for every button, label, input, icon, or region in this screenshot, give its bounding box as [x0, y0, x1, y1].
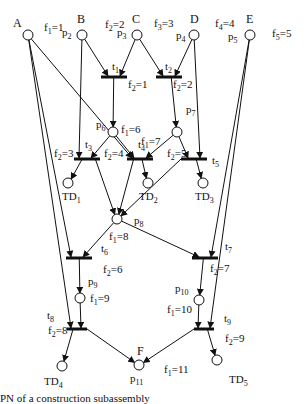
- label-t8: t8: [47, 309, 54, 324]
- label-p7: p7: [186, 103, 196, 118]
- function-label-p9: f1=9: [90, 292, 110, 307]
- arc-B-t1: [85, 39, 108, 76]
- transition-t3: [74, 158, 100, 161]
- place-p10: [194, 295, 204, 305]
- place-TD4: [57, 361, 67, 371]
- function-label-p8: f1=8: [109, 230, 129, 245]
- arc-D-t2: [175, 40, 192, 76]
- place-p9: [75, 293, 85, 303]
- transition-t1: [101, 76, 127, 79]
- place-p8: [112, 214, 122, 224]
- arc-p9-t8: [80, 303, 81, 328]
- function-label-t8: f2=8: [48, 324, 68, 339]
- place-E: [245, 30, 255, 40]
- label-t9: t9: [224, 312, 231, 327]
- place-C: [132, 30, 142, 40]
- label-p5: p5: [228, 30, 238, 45]
- place-TD1: [63, 178, 73, 188]
- label-t6: t6: [101, 242, 108, 257]
- label-t3: t3: [85, 138, 92, 153]
- arc-t9-p11: [143, 329, 194, 363]
- function-label-p6: f1=6: [121, 123, 141, 138]
- label-TD2: TD2: [139, 190, 158, 205]
- transition-t8: [67, 328, 87, 331]
- function-label-t9: f2=9: [225, 332, 245, 347]
- label-p4: p4: [176, 29, 186, 44]
- function-label-D: f3=3: [154, 17, 174, 32]
- arc-t4-TD2: [142, 159, 146, 178]
- label-B: B: [77, 12, 85, 26]
- place-TD5: [212, 355, 222, 365]
- arc-t9-TD5: [207, 329, 215, 355]
- arc-C-t1: [120, 40, 135, 76]
- label-TD5: TD5: [229, 373, 248, 388]
- function-label-t3: f2=3: [54, 147, 74, 162]
- label-p10: p10: [175, 282, 189, 297]
- label-t5: t5: [212, 154, 219, 169]
- label-E: E: [246, 12, 253, 26]
- label-t2: t2: [165, 60, 172, 75]
- arc-t1-p6: [113, 77, 114, 127]
- arc-E-t7: [211, 40, 249, 257]
- label-p11: p11: [130, 372, 143, 387]
- transition-t7: [192, 257, 218, 260]
- petri-net-diagram: ABCDEFp2p3p4p5p6p7p8p9p10p11TD1TD2TD3TD4…: [0, 0, 306, 404]
- arc-p8-t7: [122, 221, 199, 257]
- arc-t6-p9: [79, 258, 80, 293]
- arc-B-t3: [79, 40, 82, 158]
- place-TD3: [198, 178, 208, 188]
- arc-t3-p8: [95, 159, 114, 215]
- function-label-B: f1=1: [44, 21, 63, 36]
- arc-D-t5: [194, 40, 200, 158]
- arc-t5-TD3: [196, 159, 201, 178]
- label-t1: t1: [112, 60, 119, 75]
- function-label-t6: f2=6: [103, 263, 123, 278]
- transition-t2: [156, 76, 182, 79]
- place-A: [23, 30, 33, 40]
- arc-E-t9: [210, 40, 249, 328]
- place-D: [189, 30, 199, 40]
- place-TD2: [143, 178, 153, 188]
- arc-t8-p11: [87, 329, 135, 362]
- figure-caption: PN of a construction subassembly: [0, 392, 150, 404]
- label-p2: p2: [62, 26, 72, 41]
- function-label-t7: f2=7: [210, 262, 230, 277]
- label-p9: p9: [88, 275, 98, 290]
- function-label-t4: f2=4: [104, 147, 124, 162]
- arc-C-t2: [140, 39, 163, 76]
- label-D: D: [190, 12, 199, 26]
- transition-t6: [66, 257, 92, 260]
- label-TD3: TD3: [195, 190, 214, 205]
- arc-p10-t9: [198, 305, 199, 328]
- place-B: [77, 30, 87, 40]
- arc-t3-TD1: [71, 159, 82, 179]
- label-TD4: TD4: [44, 375, 63, 390]
- function-label-p10: f1=10: [167, 303, 192, 318]
- place-p11: [134, 360, 144, 370]
- label-C: C: [132, 12, 140, 26]
- label-A: A: [13, 16, 22, 30]
- label-TD1: TD1: [62, 190, 81, 205]
- function-label-t2: f2=2: [173, 78, 192, 93]
- place-p6: [108, 127, 118, 137]
- place-p7: [172, 127, 182, 137]
- transition-t9: [194, 328, 214, 331]
- label-t7: t7: [225, 240, 232, 255]
- function-label-E-right: f5=5: [272, 27, 292, 42]
- transition-t4: [127, 158, 153, 161]
- function-label-t1: f2=1: [128, 78, 147, 93]
- label-p8: p8: [134, 214, 144, 229]
- function-label-p11: f1=11: [164, 363, 188, 378]
- label-F: F: [137, 344, 144, 358]
- arc-t7-p10: [200, 258, 204, 295]
- label-p6: p6: [96, 118, 106, 133]
